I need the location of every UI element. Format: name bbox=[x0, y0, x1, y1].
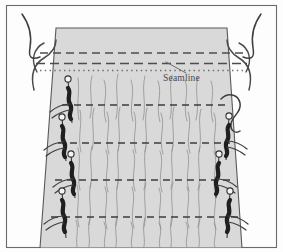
illustration-contents bbox=[22, 14, 261, 250]
figure-canvas bbox=[0, 0, 283, 252]
seamline-label: Seamline bbox=[163, 73, 200, 83]
illustration-figure: Seamline bbox=[0, 0, 283, 252]
fabric-panel bbox=[40, 28, 242, 248]
